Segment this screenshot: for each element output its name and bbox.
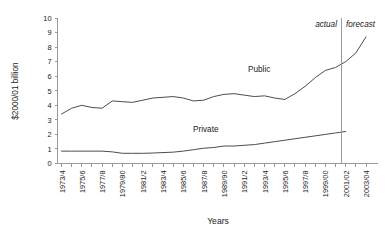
y-tick-label: 4 [47, 101, 51, 110]
y-tick-label: 7 [47, 57, 51, 66]
y-tick-label: 6 [47, 72, 51, 81]
x-tick-label: 1989/90 [220, 171, 229, 198]
y-axis-title: $2000/01 billion [11, 62, 20, 120]
x-axis-title: Years [207, 216, 229, 226]
x-tick-label: 1993/4 [261, 171, 270, 194]
y-tick-label: 2 [47, 130, 51, 139]
y-axis-group: 012345678910 $2000/01 billion [11, 14, 58, 169]
x-tick-label: 1991/2 [240, 171, 249, 194]
y-tick-label: 5 [47, 87, 51, 96]
series-line-private [62, 131, 346, 153]
forecast-divider-group: actual forecast [315, 18, 376, 164]
actual-annotation: actual [315, 20, 337, 29]
x-tick-label: 1987/8 [200, 171, 209, 194]
series-label-private: Private [193, 125, 219, 134]
x-tick-label: 1973/4 [58, 171, 67, 194]
chart-container: 012345678910 $2000/01 billion 1973/41975… [0, 0, 389, 233]
x-tick-label: 1999/00 [321, 171, 330, 198]
y-tick-label: 10 [43, 14, 51, 23]
x-tick-label: 2001/02 [342, 171, 351, 198]
y-tick-label: 9 [47, 28, 51, 37]
line-chart: 012345678910 $2000/01 billion 1973/41975… [0, 0, 389, 233]
x-tick-label: 1997/8 [301, 171, 310, 194]
x-tick-label: 2003/04 [362, 171, 371, 198]
x-axis-group: 1973/41975/61977/81979/801981/21983/4198… [58, 164, 379, 227]
x-tick-label: 1979/80 [118, 171, 127, 198]
x-tick-label: 1975/6 [78, 171, 87, 194]
y-tick-label: 8 [47, 43, 51, 52]
y-tick-label: 1 [47, 145, 51, 154]
x-tick-label: 1995/6 [281, 171, 290, 194]
x-tick-label: 1985/6 [179, 171, 188, 194]
x-tick-label: 1977/8 [98, 171, 107, 194]
x-axis-tick-marks [62, 164, 367, 168]
y-tick-label: 3 [47, 116, 51, 125]
x-axis-tick-labels: 1973/41975/61977/81979/801981/21983/4198… [58, 171, 372, 198]
forecast-annotation: forecast [346, 20, 376, 29]
x-tick-label: 1983/4 [159, 171, 168, 194]
x-tick-label: 1981/2 [139, 171, 148, 194]
series-label-public: Public [248, 65, 270, 74]
y-tick-label: 0 [47, 159, 51, 168]
y-axis-tick-labels: 012345678910 [43, 14, 51, 169]
plot-area [62, 37, 367, 153]
series-line-public [62, 37, 367, 114]
